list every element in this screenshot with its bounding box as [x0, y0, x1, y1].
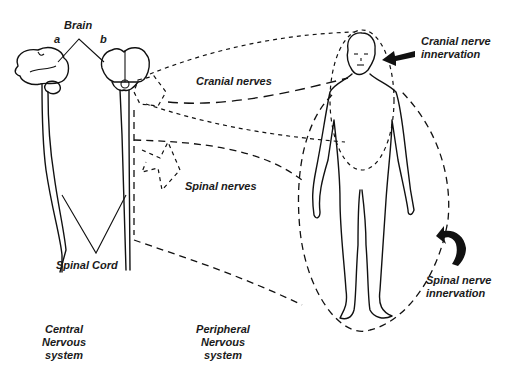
spinal-innervation-label: Spinal nerve innervation	[426, 274, 491, 300]
cranial-innervation-label: Cranial nerve innervation	[421, 35, 491, 61]
spinal-nerves-label: Spinal nerves	[185, 180, 257, 193]
spinal-projection-lines	[134, 110, 302, 305]
cns-line3: system	[36, 349, 92, 362]
cns-line2: Nervous	[36, 336, 92, 349]
spinal-innervation-line2: innervation	[426, 287, 491, 300]
cranial-nerves-label: Cranial nerves	[196, 75, 272, 88]
brain-front-view	[101, 48, 149, 270]
cns-line1: Central	[36, 323, 92, 336]
peripheral-nervous-system-label: Peripheral Nervous system	[190, 323, 256, 362]
spinal-cord-label: Spinal Cord	[56, 259, 118, 272]
brain-label: Brain	[64, 19, 92, 32]
human-figure	[313, 33, 414, 319]
spinal-cord-pointer-lines	[62, 195, 126, 253]
nervous-system-diagram: Brain a b Cranial nerves Spinal nerves S…	[0, 0, 514, 373]
cranial-nerves-shape	[134, 76, 166, 106]
brain-lateral-view	[15, 48, 68, 272]
spinal-curved-arrow-icon	[436, 226, 466, 266]
cranial-innervation-region	[330, 30, 394, 170]
view-b-label: b	[100, 33, 107, 46]
spinal-nerves-shape	[142, 142, 180, 190]
spinal-innervation-line1: Spinal nerve	[426, 274, 491, 287]
pns-line3: system	[190, 349, 256, 362]
cranial-arrow-icon	[382, 51, 415, 66]
view-a-label: a	[54, 33, 60, 46]
central-nervous-system-label: Central Nervous system	[36, 323, 92, 362]
pns-line1: Peripheral	[190, 323, 256, 336]
cranial-innervation-line1: Cranial nerve	[421, 35, 491, 48]
cranial-innervation-line2: innervation	[421, 48, 491, 61]
pns-line2: Nervous	[190, 336, 256, 349]
